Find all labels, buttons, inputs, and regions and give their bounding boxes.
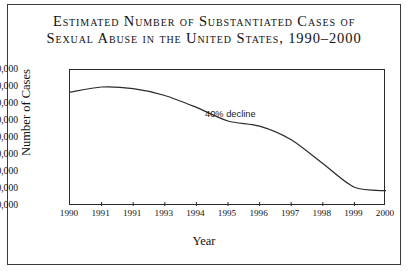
y-tick-label: 140,000 <box>0 97 18 108</box>
chart-title-line-1: Estimated Number of Substantiated Cases … <box>8 13 400 30</box>
y-tick-label: 110,000 <box>0 148 18 159</box>
x-tick-label: 2000 <box>365 208 405 218</box>
decline-annotation: 40% decline <box>205 109 256 119</box>
y-axis-label: Number of Cases <box>19 48 34 178</box>
chart-title-line-2: Sexual Abuse in the United States, 1990–… <box>8 30 400 47</box>
y-tick-label: 90,000 <box>0 182 18 193</box>
y-tick-label: 150,000 <box>0 80 18 91</box>
x-axis-label: Year <box>8 234 400 249</box>
y-tick-label: 80,000 <box>0 199 18 210</box>
y-tick-label: 160,000 <box>0 63 18 74</box>
x-axis-tick-marks <box>102 202 355 206</box>
y-tick-label: 100,000 <box>0 165 18 176</box>
y-tick-label: 120,000 <box>0 131 18 142</box>
y-tick-label: 130,000 <box>0 114 18 125</box>
data-line-chart <box>70 70 386 206</box>
figure-frame: Estimated Number of Substantiated Cases … <box>7 4 401 265</box>
data-series-line <box>70 87 386 191</box>
chart-title: Estimated Number of Substantiated Cases … <box>8 13 400 47</box>
plot-area <box>69 69 385 205</box>
